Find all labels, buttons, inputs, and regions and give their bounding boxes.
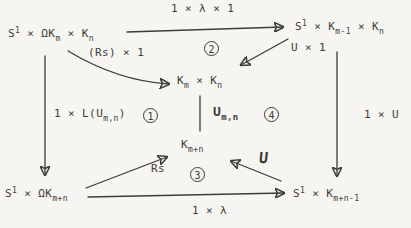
math-base: K bbox=[177, 74, 184, 87]
arrow-u bbox=[231, 161, 281, 181]
math-sub: m+n bbox=[188, 145, 204, 154]
label-1xL-umn: 1 × L(Um,n) bbox=[54, 107, 126, 123]
math-base: × K bbox=[305, 187, 333, 200]
circled-step-3: 3 bbox=[190, 167, 205, 182]
commutative-diagram: S1 × ΩKm × Kn S1 × Km-1 × Kn Km × Kn Km+… bbox=[0, 0, 411, 228]
arrow-bottom-lambda bbox=[88, 193, 284, 197]
math-base: K bbox=[181, 138, 188, 151]
math-base: × K bbox=[307, 20, 335, 33]
math-base: U bbox=[213, 104, 221, 119]
label-top-lambda: 1 × λ × 1 bbox=[171, 2, 234, 15]
circled-step-1: 1 bbox=[143, 108, 158, 123]
label-rs: Rs bbox=[151, 162, 165, 175]
math-sub: n bbox=[379, 27, 384, 36]
node-s1-km-plus-n-1: S1 × Km+n-1 bbox=[293, 186, 359, 203]
math-base: × K bbox=[351, 20, 379, 33]
node-km-kn: Km × Kn bbox=[177, 74, 223, 90]
math-base: × K bbox=[189, 74, 217, 87]
node-s1-omega-km-kn: S1 × ΩKm × Kn bbox=[8, 26, 94, 43]
label-u: U bbox=[258, 149, 269, 167]
arrow-top-lambda bbox=[127, 27, 283, 32]
math-sub: n bbox=[89, 34, 94, 43]
circled-step-4: 4 bbox=[264, 107, 279, 122]
math-base: × ΩK bbox=[20, 27, 55, 40]
math-base: S bbox=[295, 20, 302, 33]
label-rs-times-1: (Rs) × 1 bbox=[88, 46, 144, 59]
math-base: × ΩK bbox=[17, 187, 52, 200]
circled-step-2: 2 bbox=[204, 41, 219, 56]
math-sub: n bbox=[217, 81, 222, 90]
arrow-u-times-1 bbox=[241, 39, 288, 65]
math-base: × K bbox=[61, 27, 89, 40]
math-sub: m-1 bbox=[335, 27, 351, 36]
math-sub: m,n bbox=[103, 114, 119, 123]
label-u-times-1: U × 1 bbox=[291, 41, 326, 54]
node-km-plus-n: Km+n bbox=[181, 138, 204, 154]
label-umn: Um,n bbox=[213, 104, 239, 122]
math-base: S bbox=[5, 187, 12, 200]
math-base: S bbox=[8, 27, 15, 40]
node-s1-km-1-kn: S1 × Km-1 × Kn bbox=[295, 19, 384, 36]
math-sub: m,n bbox=[221, 112, 238, 122]
math-base: 1 × L(U bbox=[54, 107, 103, 120]
label-bottom-lambda: 1 × λ bbox=[192, 204, 227, 217]
math-sub: m+n-1 bbox=[333, 194, 359, 203]
math-sub: m+n bbox=[52, 194, 68, 203]
math-base: S bbox=[293, 187, 300, 200]
node-s1-omega-km-plus-n: S1 × ΩKm+n bbox=[5, 186, 68, 203]
math-base: ) bbox=[119, 107, 126, 120]
label-1-times-u: 1 × U bbox=[364, 108, 399, 121]
